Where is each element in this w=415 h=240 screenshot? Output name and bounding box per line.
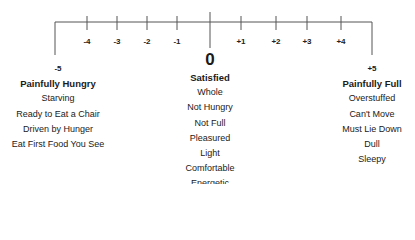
list-item: Energetic	[160, 176, 260, 184]
list-item: Not Full	[160, 116, 260, 131]
list-item: Must Lie Down	[324, 122, 415, 137]
tick-label: -2	[137, 37, 157, 46]
tick-label: -3	[107, 37, 127, 46]
tick-label: +4	[331, 37, 351, 46]
tick-label: -4	[77, 37, 97, 46]
column-heading: Painfully Hungry	[4, 76, 112, 91]
tick-label: -1	[167, 37, 187, 46]
scale-value: -5	[4, 61, 112, 76]
tick-label: +2	[266, 37, 286, 46]
list-item: Not Hungry	[160, 100, 260, 115]
list-item: Starving	[4, 91, 112, 106]
list-item: Overstuffed	[324, 91, 415, 106]
list-item: Eat First Food You See	[4, 137, 112, 152]
scale-value: +5	[324, 61, 415, 76]
column-painfully-hungry: -5 Painfully Hungry Starving Ready to Ea…	[4, 61, 112, 152]
list-item: Light	[160, 146, 260, 161]
column-painfully-full: +5 Painfully Full Overstuffed Can't Move…	[324, 61, 415, 167]
column-heading: Satisfied	[160, 70, 260, 85]
tick-label: +3	[297, 37, 317, 46]
list-item: Dull	[324, 137, 415, 152]
tick-label: +1	[231, 37, 251, 46]
scale-value: 0	[160, 50, 260, 70]
list-item: Comfortable	[160, 161, 260, 176]
list-item: Ready to Eat a Chair	[4, 107, 112, 122]
list-item: Can't Move	[324, 107, 415, 122]
list-item: Pleasured	[160, 131, 260, 146]
column-satisfied: 0 Satisfied Whole Not Hungry Not Full Pl…	[160, 50, 260, 184]
list-item: Sleepy	[324, 152, 415, 167]
list-item: Whole	[160, 85, 260, 100]
column-heading: Painfully Full	[324, 76, 415, 91]
list-item: Driven by Hunger	[4, 122, 112, 137]
